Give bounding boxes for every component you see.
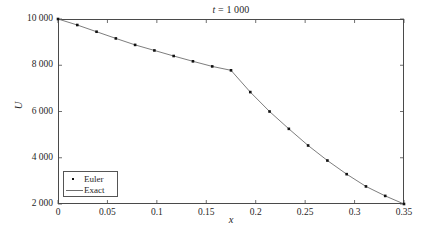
y-tick-label: 10 000	[8, 13, 53, 23]
data-point-marker	[403, 203, 406, 206]
data-point-marker	[345, 173, 348, 176]
data-point-marker	[230, 69, 233, 72]
data-point-marker	[365, 185, 368, 188]
data-point-marker	[153, 49, 156, 52]
data-point-marker	[307, 144, 310, 147]
data-point-marker	[326, 159, 329, 162]
data-point-marker	[192, 60, 195, 63]
y-tick-label: 4 000	[8, 152, 53, 162]
y-axis-title: U	[13, 94, 24, 118]
legend-line-icon	[64, 184, 84, 196]
data-point-marker	[57, 18, 60, 21]
data-point-marker	[211, 65, 214, 68]
data-point-marker	[95, 30, 98, 33]
legend-item-exact: Exact	[64, 184, 117, 196]
legend: Euler Exact	[63, 171, 118, 197]
legend-label-exact: Exact	[84, 184, 105, 196]
data-point-marker	[76, 24, 79, 27]
data-point-marker	[288, 128, 291, 131]
plot-svg	[0, 0, 423, 238]
figure-canvas: t = 1 000 2 0004 0006 0008 00010 000 00.…	[0, 0, 423, 238]
data-point-marker	[115, 37, 118, 40]
data-point-marker	[134, 44, 137, 47]
data-point-marker	[172, 55, 175, 58]
y-tick-label: 8 000	[8, 59, 53, 69]
x-axis-title: x	[58, 214, 404, 225]
data-point-marker	[384, 195, 387, 198]
data-point-marker	[249, 91, 252, 94]
data-point-marker	[268, 110, 271, 113]
